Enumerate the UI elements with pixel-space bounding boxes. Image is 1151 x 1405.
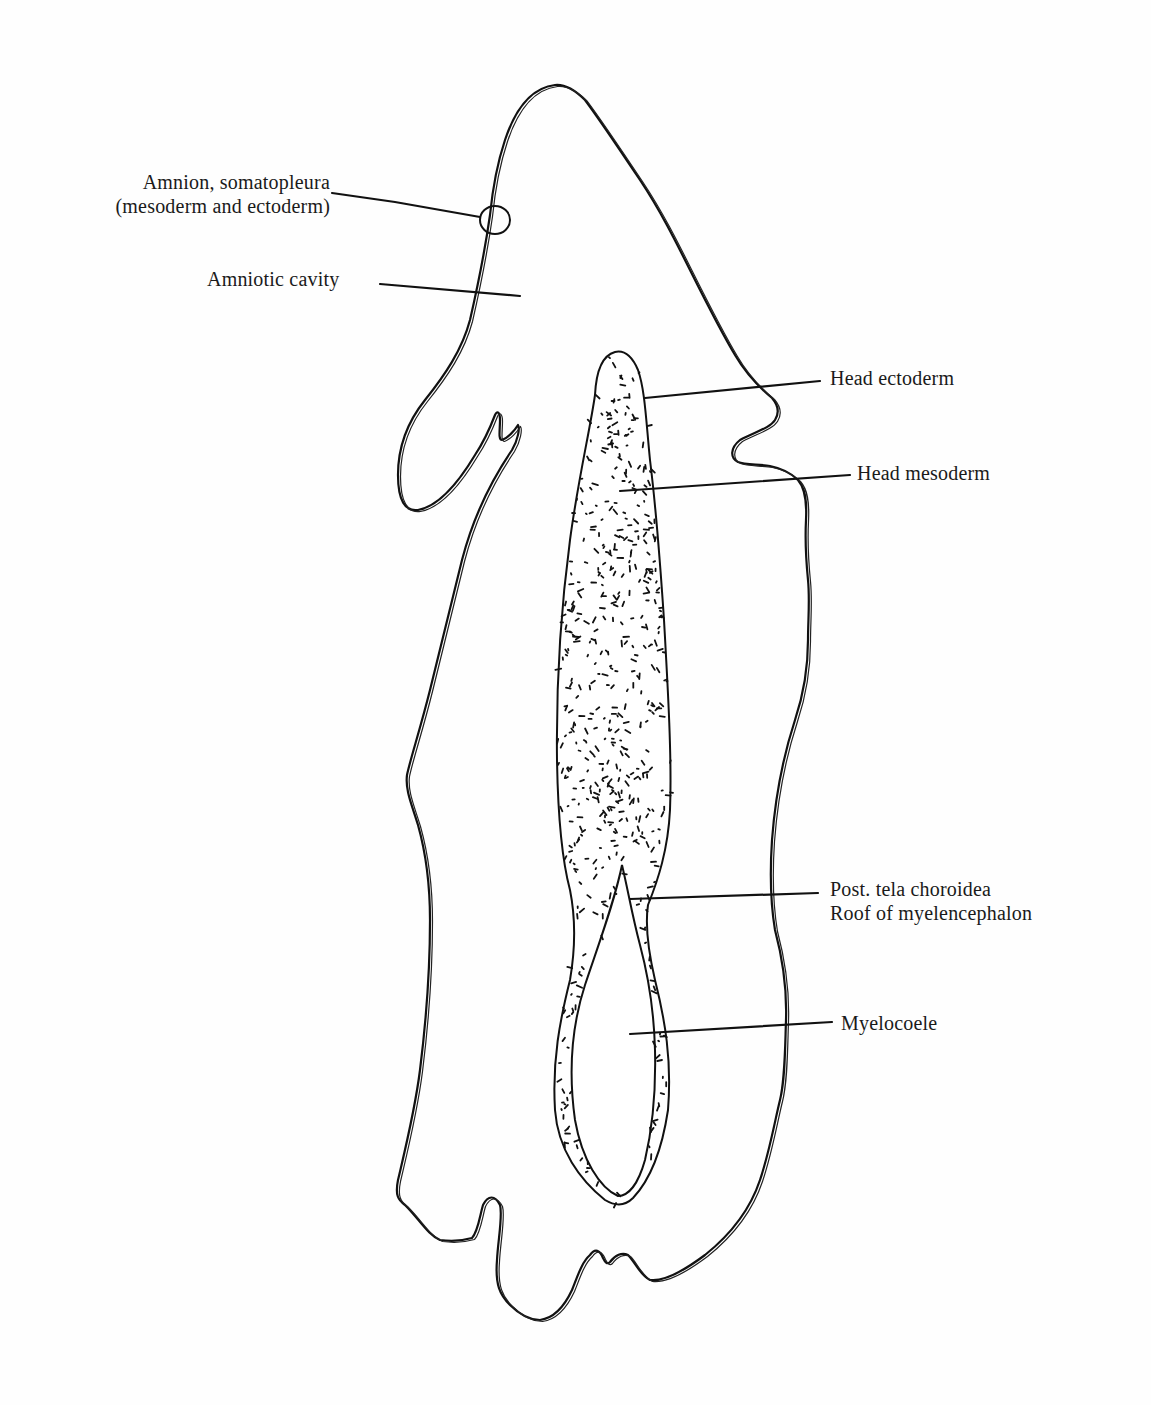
stipple-mark (637, 904, 640, 905)
stipple-mark (624, 722, 629, 723)
stipple-mark (620, 385, 625, 386)
stipple-mark (574, 869, 578, 870)
stipple-mark (658, 627, 659, 629)
stipple-mark (649, 1146, 650, 1147)
label-amnion: Amnion, somatopleura (mesoderm and ectod… (40, 170, 330, 218)
stipple-mark (602, 901, 606, 902)
stipple-mark (644, 529, 649, 530)
stipple-mark (591, 527, 596, 528)
stipple-mark (610, 825, 611, 826)
stipple-mark (651, 980, 655, 981)
stipple-mark (625, 704, 626, 709)
stipple-mark (565, 776, 566, 778)
stipple-mark (587, 655, 588, 657)
label-myelocoele: Myelocoele (841, 1011, 937, 1035)
stipple-mark (639, 580, 640, 582)
stipple-mark (659, 1103, 660, 1106)
stipple-mark (639, 778, 640, 780)
stipple-mark (590, 786, 591, 788)
stipple-mark (635, 565, 636, 569)
stipple-mark (602, 780, 603, 781)
stipple-mark (567, 967, 572, 968)
stipple-mark (601, 519, 602, 520)
stipple-mark (633, 484, 634, 486)
stipple-mark (632, 646, 633, 648)
stipple-mark (650, 966, 651, 969)
stipple-mark (586, 1172, 588, 1173)
stipple-mark (574, 521, 578, 522)
stipple-mark (567, 1098, 568, 1101)
stipple-mark (603, 545, 604, 546)
label-head-ectoderm: Head ectoderm (830, 366, 954, 390)
stipple-mark (570, 1092, 572, 1094)
stipple-mark (644, 467, 645, 472)
stipple-mark (632, 671, 635, 672)
stipple-mark (574, 641, 580, 642)
stipple-mark (640, 723, 641, 727)
stipple-mark (563, 1007, 564, 1008)
stipple-mark (635, 655, 638, 656)
stipple-mark (573, 722, 574, 727)
stipple-mark (571, 679, 572, 681)
stipple-mark (577, 613, 581, 614)
stipple-mark (608, 419, 612, 420)
stipple-mark (649, 528, 653, 529)
stipple-mark (624, 749, 628, 750)
stipple-mark (572, 1009, 573, 1011)
stipple-mark (587, 799, 589, 800)
stipple-mark (601, 413, 602, 414)
stipple-mark (571, 573, 572, 575)
stipple-mark (648, 809, 650, 811)
stipple-mark (655, 866, 659, 867)
label-head-mesoderm: Head mesoderm (857, 461, 990, 485)
stipple-mark (598, 797, 599, 802)
leader-amniotic-cavity (380, 284, 520, 296)
stipple-mark (590, 488, 592, 490)
stipple-mark (564, 706, 567, 707)
stipple-mark (631, 550, 632, 553)
leader-head-mesoderm (620, 475, 850, 491)
stipple-mark (615, 447, 617, 448)
stipple-mark (628, 540, 632, 541)
stipple-mark (587, 770, 588, 771)
stipple-mark (641, 616, 642, 618)
stipple-mark (566, 777, 568, 778)
stipple-mark (629, 481, 631, 482)
stipple-mark (564, 1104, 565, 1105)
stipple-mark (631, 618, 633, 619)
stipple-mark (639, 816, 640, 822)
neural-tissue (554, 352, 673, 1208)
stipple-mark (609, 857, 610, 859)
stipple-mark (646, 721, 648, 722)
stipple-mark (570, 860, 571, 863)
stipple-mark (644, 593, 649, 594)
stipple-mark (569, 851, 572, 852)
stipple-mark (594, 756, 595, 757)
stipple-mark (570, 732, 572, 733)
stipple-mark (614, 845, 617, 846)
stipple-mark (575, 871, 576, 872)
stipple-mark (616, 765, 617, 769)
stipple-mark (609, 357, 610, 358)
stipple-mark (652, 810, 653, 812)
stipple-mark (660, 716, 665, 717)
stipple-mark (670, 760, 671, 763)
stipple-mark (583, 539, 584, 541)
stipple-mark (618, 778, 619, 781)
stipple-mark (648, 701, 649, 705)
stipple-mark (565, 602, 566, 606)
stipple-mark (566, 655, 568, 656)
stipple-mark (633, 378, 634, 381)
stipple-mark (611, 809, 612, 810)
stipple-mark (603, 448, 608, 449)
stipple-mark (561, 1109, 562, 1110)
stipple-mark (598, 427, 599, 428)
stipple-mark (622, 641, 623, 647)
stipple-mark (655, 537, 656, 541)
stipple-mark (659, 616, 661, 618)
stipple-mark (555, 669, 561, 670)
stipple-mark (567, 1016, 570, 1017)
stipple-mark (623, 512, 625, 513)
stipple-mark (656, 581, 657, 583)
stipple-mark (631, 431, 633, 432)
